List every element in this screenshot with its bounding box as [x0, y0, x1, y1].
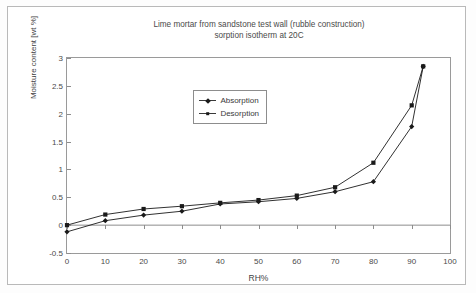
data-point-marker: [421, 64, 425, 68]
x-tick-label: 40: [216, 257, 225, 266]
data-point-marker: [141, 213, 146, 218]
x-tick-label: 50: [254, 257, 263, 266]
data-point-marker: [103, 212, 107, 216]
plot-area: -0.500.511.522.53 0102030405060708090100…: [66, 57, 451, 254]
x-tick-label: 90: [407, 257, 416, 266]
chart-title-line-2: sorption isotherm at 20C: [66, 30, 452, 41]
y-tick-label: 3: [59, 54, 63, 63]
y-axis-label: Moisture content [wt %]: [29, 3, 38, 113]
y-tick-label: 0: [59, 221, 63, 230]
x-tick-label: 10: [101, 257, 110, 266]
y-tick-label: 1: [59, 165, 63, 174]
scanned-page-background: Lime mortar from sandstone test wall (ru…: [0, 0, 476, 293]
x-tick-label: 70: [331, 257, 340, 266]
data-point-marker: [410, 103, 414, 107]
data-point-marker: [142, 207, 146, 211]
data-point-marker: [179, 209, 184, 214]
legend-item-absorption: Absorption: [199, 94, 259, 107]
data-point-marker: [180, 204, 184, 208]
y-tick-mark: [67, 253, 71, 254]
y-tick-label: 1.5: [52, 137, 63, 146]
x-tick-label: 100: [443, 257, 456, 266]
x-tick-label: 0: [65, 257, 69, 266]
x-tick-label: 80: [369, 257, 378, 266]
data-point-marker: [333, 189, 338, 194]
square-marker-icon: [199, 113, 216, 114]
diamond-marker-icon: [199, 100, 216, 101]
data-point-marker: [371, 179, 376, 184]
chart-title-line-1: Lime mortar from sandstone test wall (ru…: [66, 19, 452, 30]
legend-item-label: Desorption: [220, 109, 259, 118]
x-axis-label: RH%: [66, 273, 451, 283]
chart-title: Lime mortar from sandstone test wall (ru…: [66, 19, 452, 41]
data-point-marker: [409, 124, 414, 129]
figure-border: Lime mortar from sandstone test wall (ru…: [7, 6, 466, 285]
data-point-marker: [371, 161, 375, 165]
data-point-marker: [218, 201, 222, 205]
x-tick-label: 30: [177, 257, 186, 266]
y-tick-label: 0.5: [52, 193, 63, 202]
x-tick-label: 60: [292, 257, 301, 266]
data-point-marker: [103, 218, 108, 223]
data-point-marker: [256, 198, 260, 202]
y-tick-label: 2.5: [52, 81, 63, 90]
data-point-marker: [65, 223, 69, 227]
legend-item-label: Absorption: [220, 96, 258, 105]
x-tick-mark: [450, 225, 451, 229]
y-tick-label: -0.5: [49, 249, 63, 258]
legend-item-desorption: Desorption: [199, 107, 259, 120]
data-point-marker: [333, 185, 337, 189]
data-series-layer: [67, 58, 450, 253]
data-point-marker: [64, 229, 69, 234]
y-tick-label: 2: [59, 109, 63, 118]
data-point-marker: [295, 194, 299, 198]
chart-legend: AbsorptionDesorption: [193, 90, 267, 124]
x-tick-label: 20: [139, 257, 148, 266]
